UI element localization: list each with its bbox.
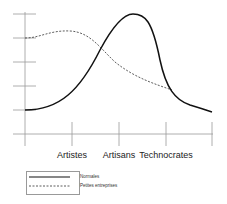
legend-box (26, 171, 80, 195)
series-normales (25, 14, 212, 112)
x-label-technocrates: Technocrates (139, 150, 193, 160)
x-label-artisans: Artisans (103, 150, 136, 160)
legend-label-petites-entreprises: Petites entreprises (80, 183, 117, 188)
axes (13, 12, 213, 146)
x-label-artistes: Artistes (57, 150, 87, 160)
legend-label-normales: Normales (80, 174, 99, 179)
series-petites-entreprises (25, 31, 172, 90)
